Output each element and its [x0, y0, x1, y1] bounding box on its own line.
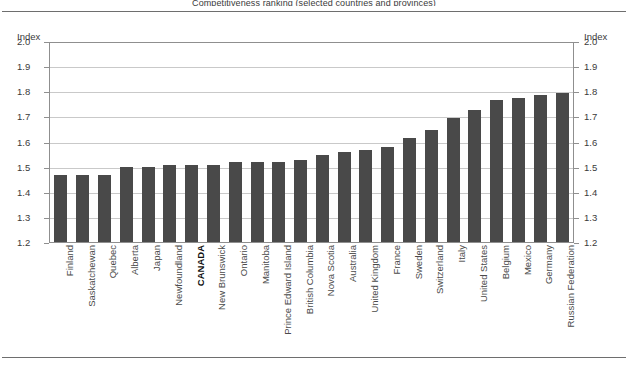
y-tick-label-right: 1.2 — [584, 238, 614, 248]
bar — [76, 175, 89, 242]
y-tick-mark-left — [44, 117, 49, 118]
x-tick-label: Belgium — [501, 245, 511, 279]
x-tick-label: Switzerland — [435, 245, 445, 294]
x-tick-label: Italy — [457, 245, 467, 262]
y-tick-mark-right — [574, 117, 579, 118]
y-tick-mark-left — [44, 67, 49, 68]
bar — [556, 93, 569, 242]
bar-series — [50, 43, 573, 242]
bar — [512, 98, 525, 242]
bar — [338, 152, 351, 242]
x-tick-label: United States — [479, 245, 489, 302]
bar — [120, 167, 133, 242]
x-tick-label: Sweden — [414, 245, 424, 279]
x-tick-label: New Brunswick — [217, 245, 227, 310]
y-tick-label-left: 1.7 — [17, 112, 43, 122]
y-tick-mark-left — [44, 243, 49, 244]
x-tick-label: CANADA — [196, 245, 206, 286]
x-tick-label: Quebec — [108, 245, 118, 278]
bar — [294, 160, 307, 242]
x-tick-label: Nova Scotia — [326, 245, 336, 296]
bar — [207, 165, 220, 242]
y-tick-mark-left — [44, 193, 49, 194]
x-tick-label: Prince Edward Island — [283, 245, 293, 335]
y-tick-mark-right — [574, 193, 579, 194]
bar — [381, 147, 394, 242]
bar — [98, 175, 111, 242]
y-tick-mark-left — [44, 92, 49, 93]
y-tick-label-left: 2.0 — [17, 37, 43, 47]
x-tick-label: Ontario — [239, 245, 249, 276]
x-tick-label: Germany — [544, 245, 554, 284]
x-tick-label: Alberta — [130, 245, 140, 275]
y-tick-mark-left — [44, 42, 49, 43]
bar — [468, 110, 481, 242]
x-tick-label: British Columbia — [305, 245, 315, 314]
bar — [534, 95, 547, 242]
y-tick-mark-right — [574, 218, 579, 219]
x-tick-label: Australia — [348, 245, 358, 282]
divider-bottom — [2, 357, 626, 358]
bar — [272, 162, 285, 242]
y-tick-mark-right — [574, 168, 579, 169]
y-tick-mark-left — [44, 218, 49, 219]
bar — [425, 130, 438, 242]
y-tick-label-right: 1.4 — [584, 188, 614, 198]
y-tick-label-left: 1.6 — [17, 138, 43, 148]
y-tick-label-right: 1.9 — [584, 62, 614, 72]
x-tick-label: Finland — [65, 245, 75, 276]
bar — [251, 162, 264, 242]
y-tick-mark-right — [574, 243, 579, 244]
x-tick-label: Japan — [152, 245, 162, 271]
y-tick-mark-right — [574, 67, 579, 68]
bar — [54, 175, 67, 242]
x-tick-label: Saskatchewan — [87, 245, 97, 307]
bar — [163, 165, 176, 242]
y-tick-label-left: 1.3 — [17, 213, 43, 223]
y-tick-label-right: 2.0 — [584, 37, 614, 47]
bar — [229, 162, 242, 242]
y-tick-label-right: 1.8 — [584, 87, 614, 97]
x-tick-label: Russian Federation — [566, 245, 576, 327]
figure-title-clipped: Competitiveness ranking (selected countr… — [0, 0, 628, 6]
x-tick-label: Mexico — [523, 245, 533, 275]
x-tick-label: United Kingdom — [370, 245, 380, 313]
y-tick-label-left: 1.8 — [17, 87, 43, 97]
y-tick-label-left: 1.4 — [17, 188, 43, 198]
bar — [316, 155, 329, 242]
y-tick-label-right: 1.6 — [584, 138, 614, 148]
x-tick-label: Newfoundland — [174, 245, 184, 306]
y-tick-label-right: 1.3 — [584, 213, 614, 223]
x-axis-labels: FinlandSaskatchewanQuebecAlbertaJapanNew… — [50, 245, 573, 357]
y-tick-label-left: 1.5 — [17, 163, 43, 173]
chart-figure: Competitiveness ranking (selected countr… — [0, 0, 628, 368]
x-tick-label: France — [392, 245, 402, 275]
bar — [142, 167, 155, 242]
bar — [403, 138, 416, 242]
y-tick-label-left: 1.9 — [17, 62, 43, 72]
y-tick-mark-right — [574, 143, 579, 144]
y-tick-label-right: 1.5 — [584, 163, 614, 173]
divider-top — [2, 11, 626, 12]
bar — [447, 118, 460, 242]
y-tick-label-left: 1.2 — [17, 238, 43, 248]
y-tick-mark-right — [574, 92, 579, 93]
bar — [359, 150, 372, 242]
y-tick-label-right: 1.7 — [584, 112, 614, 122]
bar — [490, 100, 503, 242]
y-tick-mark-right — [574, 42, 579, 43]
bar — [185, 165, 198, 242]
y-tick-mark-left — [44, 168, 49, 169]
x-tick-label: Manitoba — [261, 245, 271, 284]
y-tick-mark-left — [44, 143, 49, 144]
